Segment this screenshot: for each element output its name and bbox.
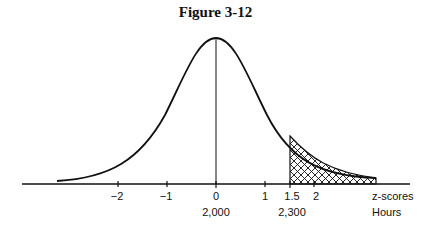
tick-label-z-minus-2: −2 [111,190,124,202]
tick-label-z-0: 0 [213,190,219,202]
hours-label-2300: 2,300 [278,206,306,218]
hours-label-2000: 2,000 [202,206,230,218]
z-scores-label: z-scores [372,190,414,202]
tick-label-z-2: 2 [313,190,319,202]
hours-axis-label: Hours [372,206,401,218]
tick-label-z-1: 1 [262,190,268,202]
tick-label-z-1-5: 1.5 [284,190,299,202]
tick-label-z-minus-1: −1 [160,190,173,202]
